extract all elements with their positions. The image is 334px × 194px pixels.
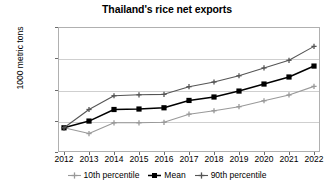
data-point-marker [311, 44, 316, 49]
data-series-layer [0, 0, 334, 194]
data-point-marker [111, 93, 116, 98]
legend-item-label: 90th percentile [211, 170, 267, 181]
data-point-marker [236, 88, 241, 93]
data-point-marker [111, 120, 116, 125]
legend-item-90th-percentile[interactable]: 90th percentile [195, 170, 267, 181]
data-point-marker [136, 106, 141, 111]
x-axis-tick-mark [164, 152, 165, 155]
data-point-marker [136, 92, 141, 97]
data-point-marker [211, 79, 216, 84]
legend-item-label: Mean [164, 170, 185, 181]
x-axis-tick-mark [264, 152, 265, 155]
legend-item-10th-percentile[interactable]: 10th percentile [68, 170, 140, 181]
data-point-marker [186, 112, 191, 117]
legend-plus-marker-icon [195, 171, 208, 180]
data-point-marker [186, 98, 191, 103]
chart-container: Thailand's rice net exports 1000 metric … [0, 0, 334, 194]
legend-item-label: 10th percentile [84, 170, 140, 181]
x-axis-tick-mark [289, 152, 290, 155]
series-90th-percentile [61, 44, 316, 131]
data-point-marker [86, 118, 91, 123]
data-point-marker [286, 58, 291, 63]
data-point-marker [236, 73, 241, 78]
data-point-marker [111, 107, 116, 112]
data-point-marker [261, 65, 266, 70]
x-axis-tick-mark [114, 152, 115, 155]
series-10th-percentile [61, 84, 316, 136]
data-point-marker [261, 81, 266, 86]
x-axis-tick-mark [89, 152, 90, 155]
data-point-marker [261, 98, 266, 103]
data-point-marker [286, 92, 291, 97]
x-axis-tick-mark [189, 152, 190, 155]
x-axis-tick-mark [139, 152, 140, 155]
data-point-marker [186, 84, 191, 89]
data-point-marker [161, 120, 166, 125]
series-line [64, 86, 314, 133]
data-point-marker [211, 94, 216, 99]
x-axis-tick-mark [239, 152, 240, 155]
x-axis-tick-mark [314, 152, 315, 155]
data-point-marker [136, 120, 141, 125]
data-point-marker [211, 108, 216, 113]
data-point-marker [286, 74, 291, 79]
data-point-marker [161, 92, 166, 97]
legend-square-marker-icon [148, 171, 161, 180]
data-point-marker [86, 131, 91, 136]
data-point-marker [161, 105, 166, 110]
x-axis-tick-mark [64, 152, 65, 155]
x-axis-tick-mark [214, 152, 215, 155]
chart-legend: 10th percentileMean90th percentile [0, 170, 334, 181]
legend-plus-marker-icon [68, 171, 81, 180]
data-point-marker [311, 84, 316, 89]
series-line [64, 66, 314, 128]
data-point-marker [311, 63, 316, 68]
data-point-marker [236, 104, 241, 109]
legend-item-mean[interactable]: Mean [148, 170, 185, 181]
